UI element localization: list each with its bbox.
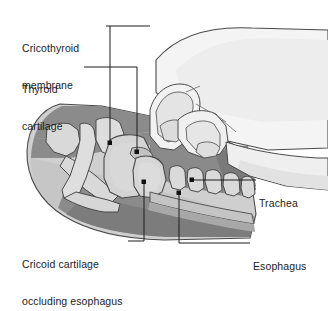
dot-cricothyroid-membrane bbox=[108, 141, 113, 146]
dot-cricoid-cartilage bbox=[142, 180, 147, 185]
cricoid-cartilage bbox=[133, 156, 166, 198]
label-trachea: Trachea bbox=[259, 173, 298, 234]
label-cricothyroid-membrane-line1: Cricothyroid bbox=[22, 42, 79, 54]
label-esophagus: Esophagus bbox=[253, 236, 306, 297]
label-cricoid-cartilage-occluding-esophagus: Cricoid cartilage occluding esophagus bbox=[22, 234, 123, 311]
dot-thyroid-cartilage bbox=[135, 150, 140, 155]
label-cricoid-line1: Cricoid cartilage bbox=[22, 258, 123, 270]
label-trachea-line1: Trachea bbox=[259, 197, 298, 209]
dot-esophagus bbox=[177, 191, 182, 196]
label-esophagus-line1: Esophagus bbox=[253, 260, 306, 272]
dot-trachea bbox=[190, 178, 195, 183]
label-thyroid-cartilage: Thyroid cartilage bbox=[22, 59, 63, 157]
label-thyroid-cartilage-line2: cartilage bbox=[22, 120, 63, 132]
label-thyroid-cartilage-line1: Thyroid bbox=[22, 83, 63, 95]
label-cricoid-line2: occluding esophagus bbox=[22, 295, 123, 307]
